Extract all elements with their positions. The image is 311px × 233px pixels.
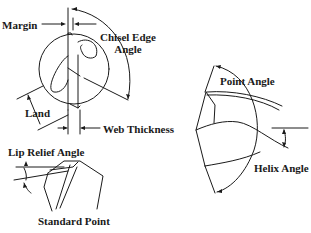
web-thickness-label: Web Thickness (103, 123, 174, 135)
margin-label: Margin (2, 19, 37, 31)
standard-point-drawing (14, 161, 103, 211)
chisel-edge-angle-label: Chisel Edge Angle (96, 31, 160, 55)
land-label: Land (25, 107, 50, 119)
lip-relief-angle-label: Lip Relief Angle (8, 146, 84, 158)
drill-point-diagram: Margin Chisel Edge Angle Land Web Thickn… (0, 0, 311, 233)
chisel-edge-angle-label-line1: Chisel Edge (96, 31, 160, 43)
standard-point-label: Standard Point (38, 215, 110, 227)
chisel-edge-angle-label-line2: Angle (96, 43, 160, 55)
point-angle-label: Point Angle (220, 75, 275, 87)
helix-angle-label: Helix Angle (254, 162, 309, 174)
